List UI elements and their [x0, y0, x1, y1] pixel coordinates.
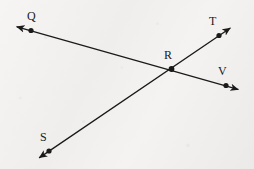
- line-QRV-segment: [17, 27, 238, 90]
- point-dot-r: [169, 66, 175, 72]
- point-dot-v: [223, 83, 228, 88]
- point-label-r: R: [164, 49, 172, 61]
- point-label-q: Q: [27, 10, 36, 22]
- point-label-v: V: [218, 65, 227, 77]
- line-SRT-group: [40, 28, 231, 157]
- point-label-t: T: [209, 15, 216, 27]
- geometry-figure: Q T R V S: [0, 0, 254, 169]
- point-dot-t: [216, 33, 221, 38]
- point-dot-s: [46, 148, 51, 153]
- line-QRV-group: [17, 27, 238, 90]
- line-SRT-segment: [40, 28, 231, 157]
- point-label-s: S: [40, 131, 47, 143]
- point-dot-q: [28, 28, 33, 33]
